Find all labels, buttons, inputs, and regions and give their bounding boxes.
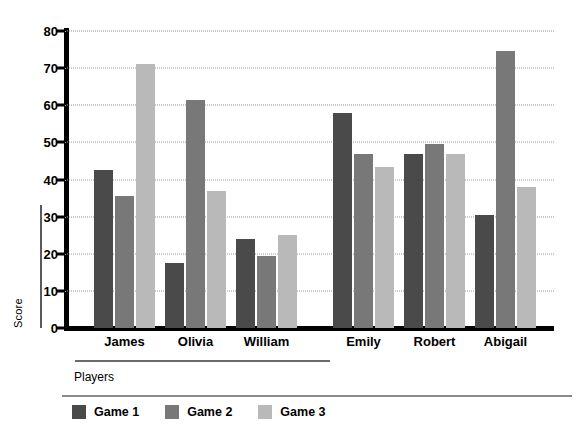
legend-label: Game 2 [187,405,232,419]
bar [333,113,352,328]
x-axis-category-label: James [104,334,144,349]
y-axis-tick-mark [56,141,65,144]
bar [375,167,394,328]
bar [165,263,184,328]
bar [354,154,373,328]
legend-swatch-icon [258,405,272,419]
bar [115,196,134,328]
bar [425,144,444,328]
bar [136,64,155,328]
x-axis-category-label: Robert [414,334,456,349]
x-axis-label: Players [74,370,114,384]
legend-label: Game 3 [280,405,325,419]
x-axis-category-label: Olivia [178,334,213,349]
category-underline-rule [75,360,330,362]
bar [94,170,113,328]
y-axis-tick-mark [56,104,65,107]
legend-item[interactable]: Game 3 [258,405,325,419]
legend-swatch-icon [165,405,179,419]
legend: Game 1Game 2Game 3 [72,404,352,420]
bar-group [165,31,226,328]
bar [186,100,205,328]
y-axis-label-text: Score [12,298,24,328]
y-axis-tick-mark [56,289,65,292]
bar-group [333,31,394,328]
x-axis-category-label: Abigail [484,334,527,349]
y-axis-tick-mark [56,178,65,181]
legend-item[interactable]: Game 1 [72,405,139,419]
x-axis-category-label: William [244,334,289,349]
bar-chart: Score 01020304050607080 JamesOliviaWilli… [0,0,585,440]
bar [404,154,423,328]
y-axis-tick-mark [56,67,65,70]
bar-series-container [64,31,554,328]
x-axis-category-labels: JamesOliviaWilliamEmilyRobertAbigail [64,334,554,354]
y-axis-tick-mark [56,215,65,218]
bar [236,239,255,328]
bar [475,215,494,328]
legend-item[interactable]: Game 2 [165,405,232,419]
y-axis-tick-mark [56,252,65,255]
bar [517,187,536,328]
bar [496,51,515,328]
y-axis-tick-labels: 01020304050607080 [30,25,58,328]
bar [257,256,276,328]
bar [278,235,297,328]
bar-group [404,31,465,328]
bar-group [94,31,155,328]
legend-label: Game 1 [94,405,139,419]
x-axis-category-label: Emily [346,334,381,349]
plot-area [64,31,554,328]
bar [446,154,465,328]
bar-group [236,31,297,328]
legend-top-rule [62,395,572,397]
bar [207,191,226,328]
bar-group [475,31,536,328]
y-axis-tick-mark [56,30,65,33]
y-axis-tick-mark [56,327,65,330]
legend-swatch-icon [72,405,86,419]
